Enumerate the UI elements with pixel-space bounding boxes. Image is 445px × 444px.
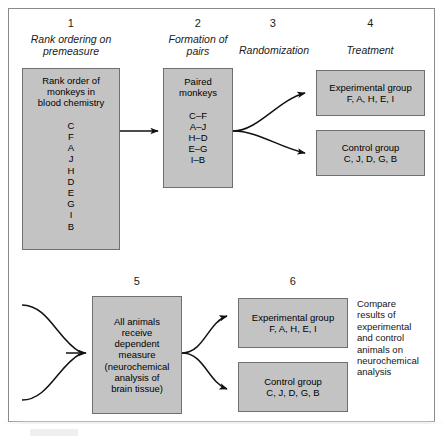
box-dependent-measure-text: All animals receive dependent measure (n… — [93, 316, 181, 394]
scan-artifact-line — [0, 421, 445, 424]
step-number-1: 1 — [22, 17, 120, 29]
step-number-4: 4 — [316, 17, 425, 29]
compare-results-note: Compare results of experimental and cont… — [357, 298, 433, 378]
figure-canvas: 1 2 3 4 Rank ordering on premeasure Form… — [0, 0, 445, 444]
box-experimental-group-treatment-text: Experimental group F, A, H, E, I — [317, 82, 424, 104]
box-experimental-group-treatment: Experimental group F, A, H, E, I — [316, 70, 425, 116]
step-number-2: 2 — [163, 17, 233, 29]
box-rank-order-text: Rank order of monkeys in blood chemistry… — [23, 69, 119, 232]
box-experimental-group-outcome-text: Experimental group F, A, H, E, I — [239, 312, 347, 334]
box-paired-monkeys: Paired monkeys C–F A–J H–D E–G I–B — [163, 68, 233, 188]
box-paired-monkeys-text: Paired monkeys C–F A–J H–D E–G I–B — [164, 69, 232, 166]
phase-label-treatment: Treatment — [320, 45, 420, 57]
box-control-group-outcome-text: Control group C, J, D, G, B — [239, 376, 347, 398]
box-rank-order-of-monkeys: Rank order of monkeys in blood chemistry… — [22, 68, 120, 250]
box-experimental-group-outcome: Experimental group F, A, H, E, I — [238, 298, 348, 348]
step-number-6: 6 — [238, 275, 348, 287]
phase-label-randomization: Randomization — [232, 45, 316, 57]
step-number-3: 3 — [238, 17, 308, 29]
box-control-group-treatment-text: Control group C, J, D, G, B — [317, 142, 424, 164]
box-dependent-measure: All animals receive dependent measure (n… — [92, 296, 182, 414]
scan-artifact-smudge — [30, 429, 78, 436]
step-number-5: 5 — [92, 275, 182, 287]
phase-label-rank-ordering: Rank ordering on premeasure — [18, 34, 124, 57]
phase-label-formation-of-pairs: Formation of pairs — [158, 34, 238, 57]
box-control-group-outcome: Control group C, J, D, G, B — [238, 362, 348, 412]
box-control-group-treatment: Control group C, J, D, G, B — [316, 130, 425, 176]
